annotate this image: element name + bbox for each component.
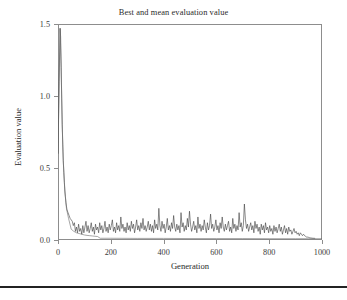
x-tick-mark bbox=[322, 240, 323, 244]
y-tick-label: 0.0 bbox=[4, 236, 50, 245]
x-tick-mark bbox=[58, 240, 59, 244]
x-tick-mark bbox=[164, 240, 165, 244]
x-tick-mark bbox=[269, 240, 270, 244]
y-tick-mark bbox=[54, 96, 58, 97]
y-tick-label: 1.0 bbox=[4, 92, 50, 101]
y-tick-mark bbox=[54, 168, 58, 169]
y-tick-mark bbox=[54, 24, 58, 25]
axis-layer: 0.00.51.01.5 02004006008001000 bbox=[0, 0, 347, 300]
chart-page: Best and mean evaluation value 0.00.51.0… bbox=[0, 0, 347, 300]
x-tick-mark bbox=[216, 240, 217, 244]
x-tick-label: 400 bbox=[144, 248, 184, 257]
y-tick-label: 1.5 bbox=[4, 20, 50, 29]
x-tick-label: 800 bbox=[249, 248, 289, 257]
y-axis-label: Evaluation value bbox=[13, 77, 23, 197]
x-tick-mark bbox=[111, 240, 112, 244]
x-tick-label: 1000 bbox=[302, 248, 342, 257]
x-tick-label: 600 bbox=[196, 248, 236, 257]
y-tick-label: 0.5 bbox=[4, 164, 50, 173]
x-tick-label: 200 bbox=[91, 248, 131, 257]
x-tick-label: 0 bbox=[38, 248, 78, 257]
bottom-divider bbox=[0, 286, 347, 288]
x-axis-label: Generation bbox=[58, 261, 322, 271]
